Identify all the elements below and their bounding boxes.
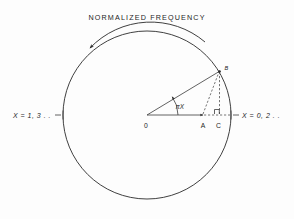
- normalized-frequency-diagram: NORMALIZED FREQUENCY X = 1, 3 . . X = 0,…: [0, 0, 294, 219]
- point-label-origin: 0: [144, 122, 148, 129]
- right-axis-label: X = 0, 2 . .: [241, 112, 280, 119]
- page-title: NORMALIZED FREQUENCY: [88, 13, 205, 22]
- angle-label: πX: [176, 103, 185, 110]
- rotation-arc-arrow: [90, 22, 205, 48]
- point-marker-b: [218, 70, 221, 73]
- left-axis-label: X = 1, 3 . .: [12, 112, 51, 119]
- figure-root: NORMALIZED FREQUENCY X = 1, 3 . . X = 0,…: [0, 0, 294, 219]
- point-label-a: A: [201, 122, 206, 129]
- point-label-b: B: [225, 65, 229, 71]
- right-angle-marker-at-C: [215, 110, 220, 115]
- point-label-c: C: [216, 122, 221, 129]
- dashed-chord-A-B: [203, 72, 219, 114]
